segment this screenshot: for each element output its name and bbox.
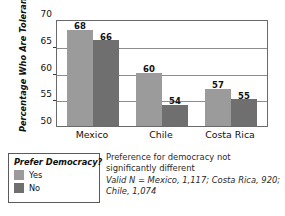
value-label-costarica-no: 55 xyxy=(238,91,250,101)
bar-costarica-no[interactable] xyxy=(231,99,257,126)
value-label-costarica-yes: 57 xyxy=(212,80,224,90)
legend-item-no[interactable]: No xyxy=(14,183,95,193)
y-tick-65: 65 xyxy=(30,36,52,46)
legend-swatch-no-icon xyxy=(14,183,24,193)
note-line-4: Chile, 1,074 xyxy=(106,186,284,197)
legend-item-yes[interactable]: Yes xyxy=(14,170,95,180)
y-tick-55: 55 xyxy=(30,89,52,99)
x-label-costa-rica: Costa Rica xyxy=(205,129,255,140)
x-axis-category-labels: Mexico Chile Costa Rica xyxy=(56,129,268,145)
y-axis-tick-labels: 70 65 60 55 50 xyxy=(30,14,52,128)
plot-area: 68 66 60 54 57 55 xyxy=(56,20,268,127)
chart-note: Preference for democracy not significant… xyxy=(106,152,284,198)
legend-swatch-yes-icon xyxy=(14,170,24,180)
value-label-chile-no: 54 xyxy=(169,96,181,106)
bar-mexico-yes[interactable] xyxy=(67,30,93,126)
note-line-3: Valid N = Mexico, 1,117; Costa Rica, 920… xyxy=(106,175,284,186)
legend-box: Prefer Democracy? Yes No xyxy=(8,153,100,203)
legend-label-no: No xyxy=(29,183,40,193)
y-tick-60: 60 xyxy=(30,63,52,73)
note-line-2: significantly different xyxy=(106,163,284,174)
x-label-mexico: Mexico xyxy=(76,129,109,140)
value-label-mexico-no: 66 xyxy=(100,32,112,42)
bar-group-container: 68 66 60 54 57 55 xyxy=(57,21,267,126)
y-tick-50: 50 xyxy=(30,116,52,126)
bar-chile-no[interactable] xyxy=(162,105,188,126)
value-label-chile-yes: 60 xyxy=(143,64,155,74)
legend-label-yes: Yes xyxy=(29,170,42,180)
bar-mexico-no[interactable] xyxy=(93,40,119,126)
value-label-mexico-yes: 68 xyxy=(74,21,86,31)
legend-title: Prefer Democracy? xyxy=(14,157,95,167)
y-axis-title: Percentage Who Are Tolerant xyxy=(18,2,28,132)
bar-chart-figure: Percentage Who Are Tolerant 70 65 60 55 … xyxy=(0,0,285,216)
x-label-chile: Chile xyxy=(149,129,172,140)
note-line-1: Preference for democracy not xyxy=(106,152,284,163)
bar-costarica-yes[interactable] xyxy=(205,89,231,127)
y-tick-70: 70 xyxy=(30,9,52,19)
bar-chile-yes[interactable] xyxy=(136,73,162,127)
